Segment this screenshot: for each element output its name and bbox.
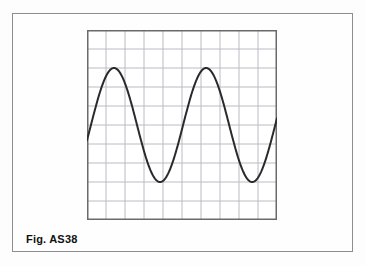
- waveform-chart: [87, 30, 277, 220]
- figure-frame: Fig. AS38: [12, 13, 353, 252]
- figure-page: Fig. AS38: [0, 0, 366, 266]
- plot-area: [87, 30, 277, 220]
- figure-caption: Fig. AS38: [26, 233, 78, 245]
